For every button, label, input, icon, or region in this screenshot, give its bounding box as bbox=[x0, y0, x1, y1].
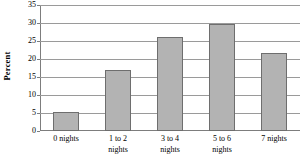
bar-chart: Percent 05101520253035 0 nights1 to 2nig… bbox=[0, 0, 305, 160]
y-tick-mark bbox=[37, 131, 40, 132]
bar bbox=[105, 70, 131, 131]
y-tick-label: 25 bbox=[28, 37, 36, 45]
x-tick-label: 3 to 4nights bbox=[144, 133, 196, 155]
x-tick-label-line: nights bbox=[196, 144, 248, 155]
bar bbox=[209, 24, 235, 131]
y-axis-tick-labels: 05101520253035 bbox=[13, 0, 39, 135]
y-tick-label: 0 bbox=[32, 127, 36, 135]
x-tick-label: 0 nights bbox=[40, 133, 92, 144]
x-tick-label-line: 1 to 2 bbox=[109, 134, 127, 143]
y-axis-title: Percent bbox=[0, 0, 14, 131]
y-tick-label: 30 bbox=[28, 19, 36, 27]
bar bbox=[261, 53, 287, 131]
x-tick-label: 5 to 6nights bbox=[196, 133, 248, 155]
y-tick-label: 10 bbox=[28, 91, 36, 99]
y-tick-label: 15 bbox=[28, 73, 36, 81]
x-tick-label: 7 nights bbox=[248, 133, 300, 144]
y-tick-label: 20 bbox=[28, 55, 36, 63]
bar bbox=[157, 37, 183, 131]
bars bbox=[40, 5, 300, 131]
x-tick-label-line: 0 nights bbox=[53, 134, 79, 143]
y-tick-label: 5 bbox=[32, 109, 36, 117]
y-tick-label: 35 bbox=[28, 1, 36, 9]
x-tick-label: 1 to 2nights bbox=[92, 133, 144, 155]
bar bbox=[53, 112, 79, 131]
x-tick-label-line: 5 to 6 bbox=[213, 134, 231, 143]
x-tick-label-line: 3 to 4 bbox=[161, 134, 179, 143]
x-tick-label-line: nights bbox=[144, 144, 196, 155]
x-tick-label-line: 7 nights bbox=[261, 134, 287, 143]
y-axis-title-text: Percent bbox=[2, 51, 12, 80]
plot-area bbox=[40, 5, 300, 131]
x-tick-label-line: nights bbox=[92, 144, 144, 155]
x-axis-tick-labels: 0 nights1 to 2nights3 to 4nights5 to 6ni… bbox=[40, 133, 300, 160]
